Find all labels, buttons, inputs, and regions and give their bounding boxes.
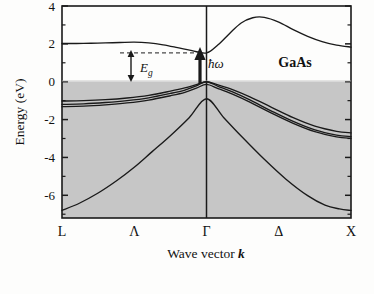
- y-tick-label: 4: [49, 0, 56, 14]
- x-tick-label: L: [58, 224, 67, 239]
- x-axis-title: Wave vector k: [167, 246, 245, 261]
- material-label: GaAs: [278, 55, 312, 70]
- x-tick-label: Λ: [129, 224, 140, 239]
- x-tick-label: X: [346, 224, 356, 239]
- y-tick-label: -4: [44, 150, 55, 165]
- y-axis-title: Energy (eV): [12, 79, 27, 146]
- band-gap-arrow: [128, 50, 135, 82]
- x-axis-ticks: LΛΓΔX: [58, 224, 356, 239]
- band-structure-figure: 420-2-4-6 LΛΓΔX Eg ħω GaAs E: [0, 0, 374, 294]
- y-tick-label: 0: [49, 74, 56, 89]
- band-structure-plot: 420-2-4-6 LΛΓΔX Eg ħω GaAs E: [0, 0, 374, 294]
- y-tick-label: -2: [44, 112, 55, 127]
- y-tick-label: -6: [44, 188, 55, 203]
- x-tick-label: Δ: [274, 224, 283, 239]
- x-tick-label: Γ: [202, 224, 210, 239]
- band-gap-label: Eg: [139, 60, 153, 78]
- y-tick-label: 2: [49, 36, 56, 51]
- photon-energy-label: ħω: [208, 56, 224, 71]
